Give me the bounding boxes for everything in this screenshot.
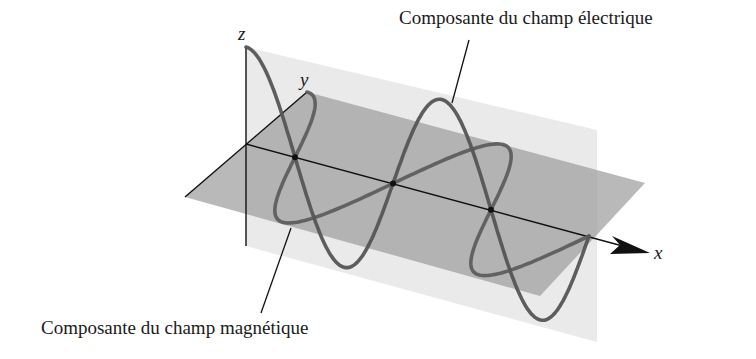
z-axis-label: z (237, 23, 246, 44)
em-wave-diagram: Composante du champ électrique Composant… (0, 0, 756, 359)
x-axis-label: x (653, 242, 663, 263)
electric-component-label: Composante du champ électrique (399, 7, 653, 28)
x-axis-arrowhead (610, 236, 650, 254)
magnetic-component-label: Composante du champ magnétique (41, 317, 309, 338)
electric-leader-line (452, 40, 469, 103)
wave-node (292, 154, 298, 160)
wave-node (488, 207, 494, 213)
wave-node (390, 180, 396, 186)
y-axis-label: y (298, 69, 309, 90)
